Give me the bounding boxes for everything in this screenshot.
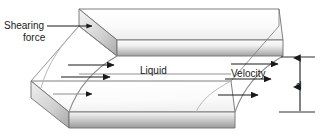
liquid-label: Liquid	[140, 65, 167, 76]
upper-moving-plate	[79, 9, 283, 56]
upper-plate-front-face	[117, 40, 283, 56]
shear-flow-diagram: Shearing force Liquid Velocity d	[0, 0, 320, 137]
shearing-label: Shearing	[4, 20, 44, 31]
force-label: force	[23, 32, 46, 43]
gap-label: d	[296, 80, 302, 91]
diagram-canvas: Shearing force Liquid Velocity d	[0, 0, 320, 137]
lower-stationary-plate	[31, 81, 235, 128]
velocity-label: Velocity	[231, 68, 265, 79]
lower-plate-front-face	[69, 112, 235, 128]
